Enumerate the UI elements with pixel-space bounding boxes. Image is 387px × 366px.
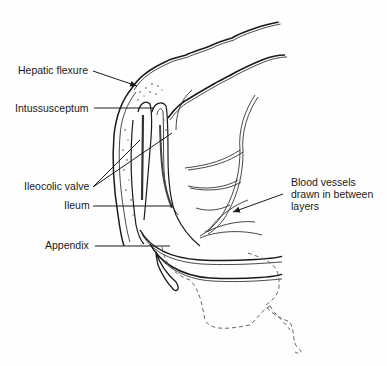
dashed-outline — [162, 247, 301, 353]
label-blood-vessels-line1: Blood vessels — [291, 176, 373, 188]
label-blood-vessels-line3: layers — [291, 200, 373, 212]
label-intussusceptum: Intussusceptum — [15, 102, 89, 114]
label-ileocolic-valve: Ileocolic valve — [24, 180, 89, 192]
colon-descending-wall — [113, 88, 136, 246]
hepatic-flexure-arrow — [93, 71, 137, 86]
label-appendix: Appendix — [45, 239, 89, 251]
label-blood-vessels: Blood vessels drawn in between layers — [291, 176, 373, 212]
label-ileum: Ileum — [64, 199, 90, 211]
intussusceptum-layers — [131, 102, 200, 246]
label-hepatic-flexure: Hepatic flexure — [18, 64, 88, 76]
ileum-tube — [140, 230, 282, 282]
ileocolic-valve-leader-2 — [93, 133, 172, 187]
leader-lines — [93, 71, 283, 246]
label-blood-vessels-line2: drawn in between — [291, 188, 373, 200]
ileocolic-valve-leader-1 — [93, 140, 140, 187]
blood-vessels — [176, 90, 262, 238]
